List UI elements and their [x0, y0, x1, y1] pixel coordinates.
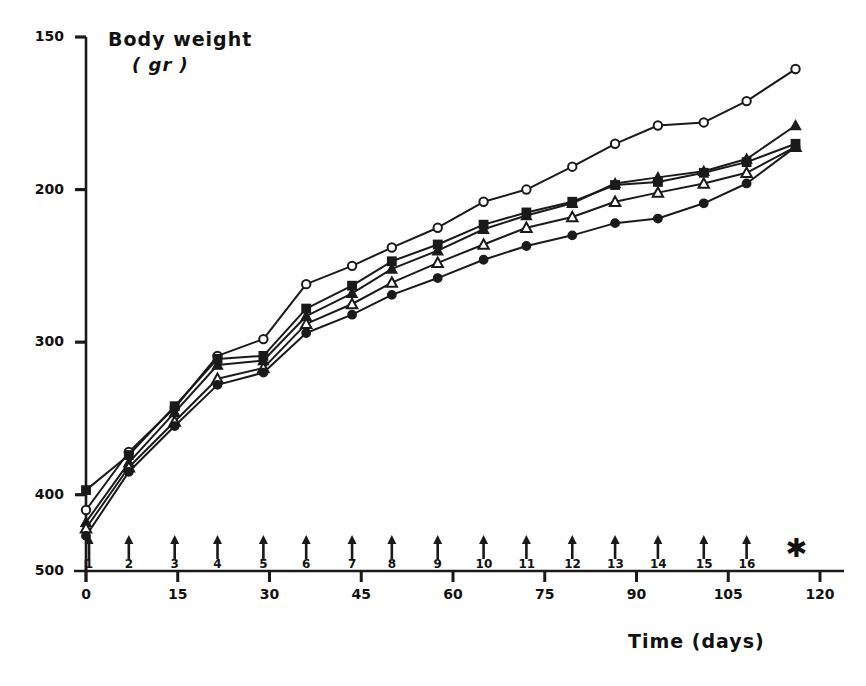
arrow-number-label: 11 [518, 557, 534, 571]
arrow-number-label: 15 [696, 557, 712, 571]
data-point-circle-filled [170, 422, 178, 430]
y-tick-label: 200 [18, 181, 64, 197]
arrow-number-label: 16 [739, 557, 755, 571]
x-tick-label: 30 [246, 586, 294, 602]
y-tick-label: 150 [18, 28, 64, 44]
axis-lines [74, 37, 844, 571]
x-tick-label: 15 [154, 586, 202, 602]
data-point-circle-filled [791, 143, 799, 151]
data-point-circle-open [82, 506, 90, 514]
chart-figure: Body weight ( gr ) Time (days) 500400300… [0, 0, 866, 686]
x-tick-label: 90 [613, 586, 661, 602]
data-point-triangle-open [347, 299, 357, 308]
data-point-circle-filled [700, 199, 708, 207]
data-point-circle-filled [434, 274, 442, 282]
data-point-circle-open [479, 198, 487, 206]
data-point-circle-filled [125, 468, 133, 476]
y-tick-label: 500 [18, 562, 64, 578]
data-point-circle-filled [302, 329, 310, 337]
data-point-circle-filled [654, 214, 662, 222]
injection-arrows [85, 535, 752, 559]
x-tick-label: 75 [521, 586, 569, 602]
x-tick-label: 0 [62, 586, 110, 602]
data-point-triangle-open [521, 223, 531, 232]
data-point-circle-open [348, 262, 356, 270]
data-point-circle-filled [388, 291, 396, 299]
data-point-circle-filled [213, 381, 221, 389]
arrow-number-label: 4 [210, 557, 226, 571]
asterisk-annotation: ✱ [786, 535, 808, 561]
x-tick-label: 60 [429, 586, 477, 602]
data-point-circle-filled [742, 179, 750, 187]
arrow-number-label: 13 [607, 557, 623, 571]
data-point-circle-open [654, 121, 662, 129]
plot-area [0, 0, 866, 686]
arrow-number-label: 9 [430, 557, 446, 571]
arrow-number-label: 14 [650, 557, 666, 571]
data-point-circle-filled [82, 532, 90, 540]
data-point-circle-open [742, 97, 750, 105]
arrow-number-label: 7 [344, 557, 360, 571]
data-point-triangle-open [387, 277, 397, 286]
arrow-number-label: 10 [476, 557, 492, 571]
data-point-circle-open [522, 185, 530, 193]
data-point-circle-open [611, 140, 619, 148]
data-point-triangle-open [653, 187, 663, 196]
data-point-circle-filled [568, 231, 576, 239]
x-tick-label: 105 [704, 586, 752, 602]
arrow-number-label: 2 [121, 557, 137, 571]
data-point-circle-open [434, 224, 442, 232]
data-point-circle-filled [611, 219, 619, 227]
series-markers [81, 65, 801, 540]
arrow-number-label: 12 [564, 557, 580, 571]
arrow-number-label: 1 [81, 557, 97, 571]
data-point-square-filled [82, 486, 90, 494]
x-tick-label: 120 [796, 586, 844, 602]
data-point-circle-open [791, 65, 799, 73]
data-point-circle-open [700, 118, 708, 126]
data-point-triangle-open [567, 212, 577, 221]
data-point-triangle-open [433, 258, 443, 267]
data-point-triangle-open [699, 178, 709, 187]
x-tick-label: 45 [337, 586, 385, 602]
data-point-triangle-open [610, 197, 620, 206]
y-tick-label: 400 [18, 486, 64, 502]
y-tick-label: 300 [18, 333, 64, 349]
data-point-triangle-open [741, 168, 751, 177]
data-point-circle-open [302, 280, 310, 288]
data-point-circle-open [568, 162, 576, 170]
data-point-circle-filled [259, 368, 267, 376]
data-point-circle-filled [522, 242, 530, 250]
data-point-triangle-open [478, 239, 488, 248]
arrow-number-label: 3 [167, 557, 183, 571]
data-point-circle-open [259, 335, 267, 343]
data-point-circle-filled [348, 310, 356, 318]
data-point-circle-filled [479, 256, 487, 264]
arrow-number-label: 6 [298, 557, 314, 571]
arrow-number-label: 8 [384, 557, 400, 571]
arrow-number-label: 5 [255, 557, 271, 571]
series-lines [86, 69, 796, 536]
data-point-triangle-filled [790, 120, 800, 129]
data-point-circle-open [388, 243, 396, 251]
axis-ticks [75, 37, 820, 582]
